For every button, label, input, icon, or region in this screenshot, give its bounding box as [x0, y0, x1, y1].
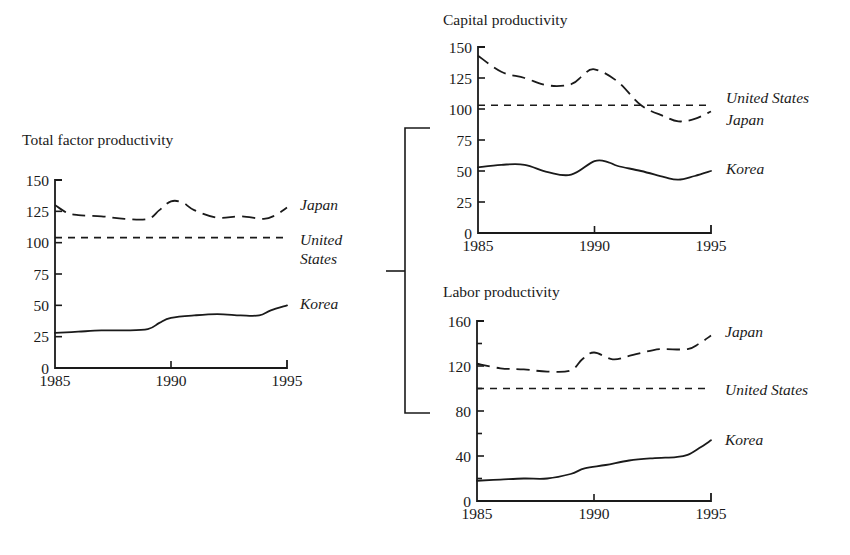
series-line-japan: [478, 56, 711, 122]
series-label-korea: Korea: [299, 295, 338, 312]
chart-title: Total factor productivity: [22, 131, 174, 148]
chart-title: Labor productivity: [443, 283, 560, 300]
chart-series: JapanUnited StatesKorea: [477, 323, 808, 481]
chart-total-factor-productivity: Total factor productivity 02550751001251…: [22, 131, 342, 389]
x-tick-label: 1990: [579, 505, 610, 522]
series-label-united-states: United States: [726, 89, 809, 106]
grouping-bracket: [386, 128, 430, 413]
series-label-united-states: United: [300, 231, 342, 248]
chart-labor-productivity: Labor productivity 040801201601985199019…: [443, 283, 808, 522]
series-label-japan: Japan: [300, 196, 338, 213]
series-label-korea: Korea: [724, 431, 763, 448]
y-tick-label: 40: [456, 448, 472, 465]
series-line-korea: [478, 160, 711, 180]
y-tick-label: 150: [449, 39, 473, 56]
y-tick-label: 75: [34, 266, 50, 283]
series-label-japan: Japan: [725, 323, 763, 340]
series-line-korea: [477, 440, 711, 480]
chart-axes: 04080120160198519901995: [448, 313, 727, 523]
y-tick-label: 25: [457, 194, 473, 211]
x-tick-label: 1985: [463, 237, 494, 254]
y-tick-label: 50: [457, 163, 473, 180]
y-tick-label: 160: [448, 313, 472, 330]
y-tick-label: 125: [449, 70, 473, 87]
y-tick-label: 75: [457, 132, 473, 149]
series-label-united-states: States: [300, 250, 337, 267]
y-tick-label: 150: [26, 172, 50, 189]
x-tick-label: 1995: [696, 237, 727, 254]
chart-capital-productivity: Capital productivity 0255075100125150198…: [443, 11, 809, 254]
chart-series: JapanUnitedStatesKorea: [55, 196, 342, 333]
series-line-japan: [477, 336, 711, 372]
series-label-united-states: United States: [725, 381, 808, 398]
y-tick-label: 80: [456, 403, 472, 420]
x-tick-label: 1985: [462, 505, 493, 522]
x-tick-label: 1995: [696, 505, 727, 522]
chart-axes: 0255075100125150198519901995: [26, 172, 303, 390]
bracket-line: [405, 128, 430, 413]
series-line-japan: [55, 201, 287, 220]
y-tick-label: 50: [34, 297, 50, 314]
axis-lines: [55, 180, 287, 368]
y-tick-label: 100: [449, 101, 473, 118]
y-tick-label: 125: [26, 203, 50, 220]
x-tick-label: 1990: [579, 237, 610, 254]
x-tick-label: 1985: [40, 372, 71, 389]
productivity-figure: Total factor productivity 02550751001251…: [0, 0, 850, 555]
x-tick-label: 1990: [156, 372, 187, 389]
chart-title: Capital productivity: [443, 11, 568, 28]
y-tick-label: 100: [26, 234, 50, 251]
y-tick-label: 120: [448, 358, 472, 375]
y-tick-label: 25: [34, 328, 50, 345]
series-label-korea: Korea: [725, 160, 764, 177]
x-tick-label: 1995: [272, 372, 303, 389]
series-label-japan: Japan: [726, 111, 764, 128]
axis-lines: [477, 321, 711, 501]
chart-series: JapanUnited StatesKorea: [478, 56, 809, 180]
series-line-korea: [55, 305, 287, 333]
